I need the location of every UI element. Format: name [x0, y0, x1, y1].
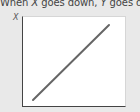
plot-area: [22, 16, 126, 107]
caption-suffix: goes down.: [107, 0, 140, 8]
caption-middle: goes down,: [38, 0, 100, 8]
y-axis-label: X: [13, 13, 18, 22]
caption-prefix: When: [0, 0, 31, 8]
data-line: [33, 25, 109, 100]
chart-caption: When X goes down, Y goes down.: [0, 0, 140, 8]
line-chart: [23, 17, 127, 108]
